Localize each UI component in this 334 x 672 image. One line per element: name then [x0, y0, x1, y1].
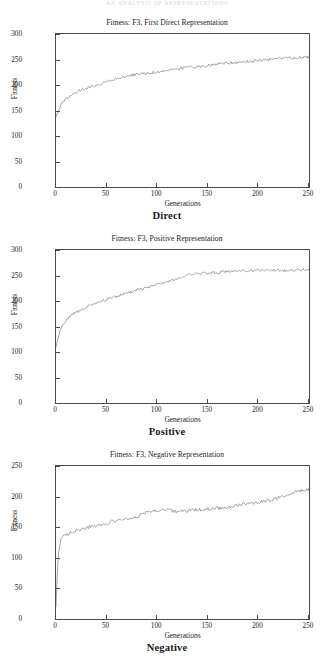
x-tick-label: 0 — [35, 190, 75, 198]
x-tick-mark — [156, 183, 157, 187]
figure-direct: Fitness: F3, First Direct Representation… — [0, 12, 334, 222]
plot-area: Fitness 050100150200250300 0501001502002… — [0, 12, 334, 222]
y-tick-mark — [56, 187, 60, 188]
figure-caption: Direct — [0, 210, 334, 221]
y-tick-label: 100 — [0, 348, 22, 356]
y-tick-mark — [56, 111, 60, 112]
x-tick-label: 200 — [237, 622, 277, 630]
x-tick-mark — [106, 183, 107, 187]
figure-caption: Positive — [0, 426, 334, 437]
plot-frame — [55, 249, 310, 404]
x-tick-mark — [257, 399, 258, 403]
y-tick-label: 200 — [0, 81, 22, 89]
y-tick-mark — [56, 466, 60, 467]
x-tick-mark — [106, 615, 107, 619]
y-tick-label: 150 — [0, 323, 22, 331]
x-tick-mark — [257, 615, 258, 619]
y-tick-label: 250 — [0, 462, 22, 470]
x-tick-label: 150 — [187, 622, 227, 630]
plot-area: Fitness 050100150200250300 0501001502002… — [0, 228, 334, 438]
y-tick-mark — [56, 327, 60, 328]
x-tick-label: 250 — [288, 406, 328, 414]
running-head: AN ANALYSIS OF REPRESENTATIONS — [0, 0, 334, 7]
x-tick-label: 100 — [136, 406, 176, 414]
y-tick-mark — [56, 60, 60, 61]
x-tick-label: 250 — [288, 622, 328, 630]
x-tick-mark — [308, 183, 309, 187]
plot-frame — [55, 465, 310, 620]
figure-negative: Fitness: F3, Negative Representation Fit… — [0, 444, 334, 670]
y-tick-mark — [56, 34, 60, 35]
plot-area: Fitness 050100150200250 050100150200250 … — [0, 444, 334, 670]
x-tick-mark — [156, 399, 157, 403]
x-tick-mark — [55, 183, 56, 187]
y-tick-label: 250 — [0, 272, 22, 280]
series-path — [56, 56, 309, 117]
x-tick-label: 0 — [35, 622, 75, 630]
y-tick-mark — [56, 352, 60, 353]
y-tick-label: 300 — [0, 30, 22, 38]
y-tick-mark — [56, 558, 60, 559]
y-tick-label: 50 — [0, 584, 22, 592]
x-axis-label: Generations — [55, 199, 310, 208]
x-axis-label: Generations — [55, 415, 310, 424]
x-tick-label: 150 — [187, 190, 227, 198]
y-tick-label: 200 — [0, 493, 22, 501]
x-tick-label: 250 — [288, 190, 328, 198]
y-tick-mark — [56, 301, 60, 302]
figure-page: AN ANALYSIS OF REPRESENTATIONS Fitness: … — [0, 0, 334, 672]
y-tick-label: 0 — [0, 183, 22, 191]
y-tick-label: 50 — [0, 158, 22, 166]
x-tick-label: 100 — [136, 622, 176, 630]
x-tick-mark — [55, 399, 56, 403]
y-tick-label: 300 — [0, 246, 22, 254]
x-tick-label: 200 — [237, 190, 277, 198]
y-tick-mark — [56, 588, 60, 589]
y-tick-mark — [56, 378, 60, 379]
figure-caption: Negative — [0, 642, 334, 653]
x-axis-label: Generations — [55, 631, 310, 640]
series-path — [56, 488, 309, 607]
x-tick-mark — [207, 399, 208, 403]
y-tick-mark — [56, 276, 60, 277]
x-tick-label: 50 — [86, 622, 126, 630]
y-tick-mark — [56, 85, 60, 86]
x-tick-mark — [257, 183, 258, 187]
x-tick-mark — [308, 399, 309, 403]
series-line — [56, 34, 309, 187]
series-line — [56, 466, 309, 619]
x-tick-mark — [207, 615, 208, 619]
y-tick-label: 100 — [0, 132, 22, 140]
y-tick-label: 100 — [0, 554, 22, 562]
y-tick-label: 200 — [0, 297, 22, 305]
x-tick-label: 0 — [35, 406, 75, 414]
x-tick-mark — [106, 399, 107, 403]
x-tick-mark — [156, 615, 157, 619]
y-tick-mark — [56, 403, 60, 404]
x-tick-label: 200 — [237, 406, 277, 414]
x-tick-mark — [207, 183, 208, 187]
y-tick-mark — [56, 619, 60, 620]
series-line — [56, 250, 309, 403]
y-tick-mark — [56, 162, 60, 163]
y-tick-mark — [56, 497, 60, 498]
figure-positive: Fitness: F3, Positive Representation Fit… — [0, 228, 334, 438]
x-tick-mark — [308, 615, 309, 619]
y-tick-label: 50 — [0, 374, 22, 382]
series-path — [56, 268, 309, 347]
x-tick-label: 50 — [86, 190, 126, 198]
x-tick-label: 150 — [187, 406, 227, 414]
plot-frame — [55, 33, 310, 188]
x-tick-label: 100 — [136, 190, 176, 198]
x-tick-mark — [55, 615, 56, 619]
y-tick-mark — [56, 250, 60, 251]
y-tick-label: 250 — [0, 56, 22, 64]
y-tick-label: 0 — [0, 615, 22, 623]
y-tick-mark — [56, 527, 60, 528]
y-tick-label: 150 — [0, 107, 22, 115]
x-tick-label: 50 — [86, 406, 126, 414]
y-tick-mark — [56, 136, 60, 137]
y-tick-label: 150 — [0, 523, 22, 531]
y-tick-label: 0 — [0, 399, 22, 407]
